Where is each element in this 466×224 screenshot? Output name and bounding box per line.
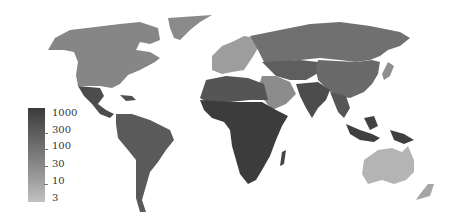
legend-label-100: 100 xyxy=(52,141,71,151)
legend-label-1000: 1000 xyxy=(52,108,77,118)
region-sub-saharan-africa xyxy=(200,100,288,184)
region-south-asia xyxy=(296,82,330,118)
color-legend: 1000 300 100 30 10 3 xyxy=(28,108,108,208)
region-australia xyxy=(362,146,414,184)
region-south-america xyxy=(116,114,174,212)
legend-tick xyxy=(44,166,48,167)
region-greenland xyxy=(168,15,212,40)
legend-label-10: 10 xyxy=(52,176,65,186)
region-new-zealand xyxy=(416,184,434,200)
legend-tick xyxy=(44,184,48,185)
region-madagascar xyxy=(280,150,286,166)
region-papua-new-guinea xyxy=(390,130,414,144)
legend-label-300: 300 xyxy=(52,125,71,135)
region-caribbean xyxy=(120,95,136,101)
region-western-europe xyxy=(212,36,258,74)
legend-tick xyxy=(44,149,48,150)
legend-label-3: 3 xyxy=(52,193,58,203)
region-north-america xyxy=(48,22,160,88)
legend-tick xyxy=(44,133,48,134)
region-russia xyxy=(250,22,410,62)
legend-gradient-bar xyxy=(28,108,45,202)
region-borneo xyxy=(364,116,378,130)
region-japan xyxy=(382,62,394,80)
legend-label-30: 30 xyxy=(52,159,65,169)
region-north-africa xyxy=(200,76,268,104)
